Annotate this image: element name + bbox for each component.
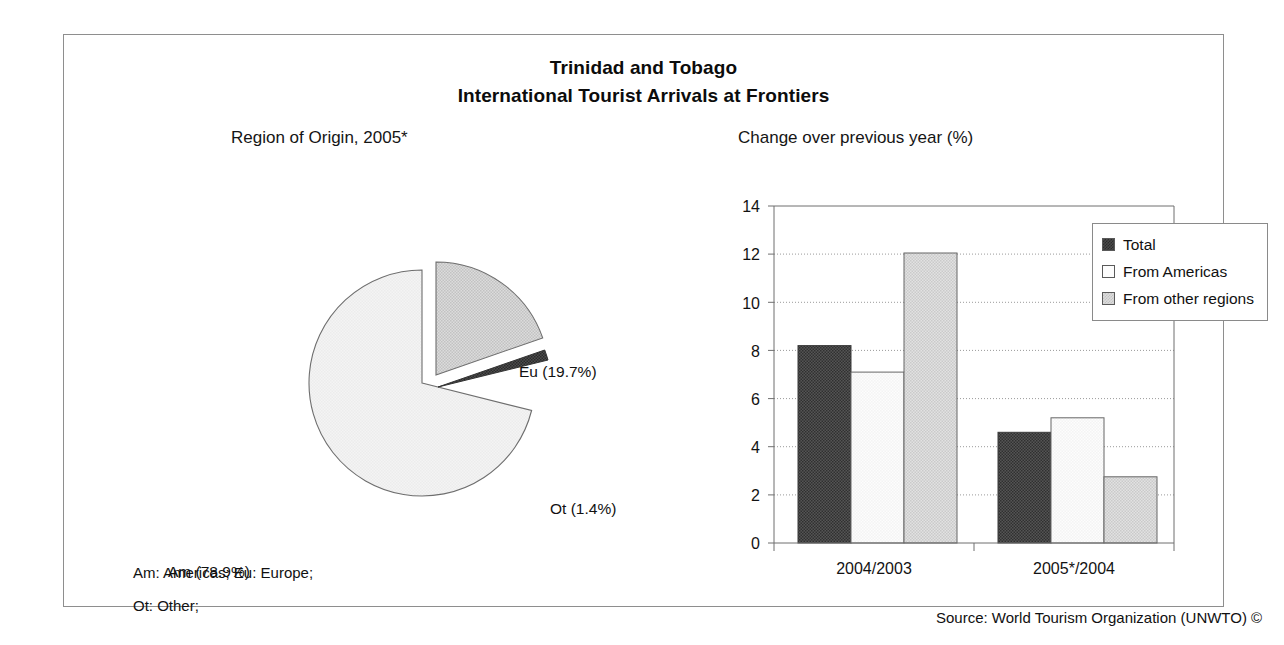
bar-2004-2003-total xyxy=(798,346,851,543)
legend-item-from-americas: From Americas xyxy=(1102,258,1259,285)
pie-chart: Eu (19.7%) Ot (1.4%) Am (78.9%) xyxy=(72,155,632,525)
bar-2004-2003-from-americas xyxy=(851,372,904,543)
y-tick-label-2: 2 xyxy=(751,487,760,504)
footnote-abbreviations-line-2: Ot: Other; xyxy=(133,597,199,614)
legend-swatch-from-other-regions-icon xyxy=(1102,292,1115,305)
bar-chart-x-axis xyxy=(774,543,1174,551)
pie-label-europe: Eu (19.7%) xyxy=(519,363,597,381)
y-tick-label-4: 4 xyxy=(751,439,760,456)
legend-swatch-from-americas-icon xyxy=(1102,265,1115,278)
bar-2005-2004-total xyxy=(998,432,1051,543)
legend-label-total: Total xyxy=(1123,236,1156,254)
y-tick-label-0: 0 xyxy=(751,535,760,552)
legend-item-total: Total xyxy=(1102,231,1259,258)
bar-chart-subtitle: Change over previous year (%) xyxy=(738,128,973,148)
bar-chart-y-axis xyxy=(768,206,774,543)
y-tick-label-10: 10 xyxy=(742,295,760,312)
source-note: Source: World Tourism Organization (UNWT… xyxy=(936,609,1262,626)
footnote-abbreviations-line-1: Am: Americas; Eu: Europe; xyxy=(133,564,313,581)
x-category-label-2005-2004: 2005*/2004 xyxy=(1033,560,1115,577)
legend-label-from-americas: From Americas xyxy=(1123,263,1227,281)
figure-title-block: Trinidad and Tobago International Touris… xyxy=(64,54,1223,110)
pie-label-other: Ot (1.4%) xyxy=(550,500,616,518)
pie-chart-subtitle: Region of Origin, 2005* xyxy=(231,128,408,148)
y-tick-label-12: 12 xyxy=(742,246,760,263)
bar-2004-2003-from-other-regions xyxy=(904,253,957,543)
legend-item-from-other-regions: From other regions xyxy=(1102,285,1259,312)
legend-label-from-other-regions: From other regions xyxy=(1123,290,1254,308)
figure-frame: Trinidad and Tobago International Touris… xyxy=(63,34,1224,607)
y-tick-label-6: 6 xyxy=(751,391,760,408)
bar-chart-legend: Total From Americas From other regions xyxy=(1092,223,1268,321)
figure-title-line-2: International Tourist Arrivals at Fronti… xyxy=(64,82,1223,110)
bar-2005-2004-from-americas xyxy=(1051,418,1104,543)
y-tick-label-14: 14 xyxy=(742,198,760,215)
x-category-label-2004-2003: 2004/2003 xyxy=(836,560,912,577)
legend-swatch-total-icon xyxy=(1102,238,1115,251)
figure-title-line-1: Trinidad and Tobago xyxy=(64,54,1223,82)
bar-2005-2004-from-other-regions xyxy=(1104,477,1157,543)
y-tick-label-8: 8 xyxy=(751,343,760,360)
pie-chart-svg xyxy=(72,155,632,525)
